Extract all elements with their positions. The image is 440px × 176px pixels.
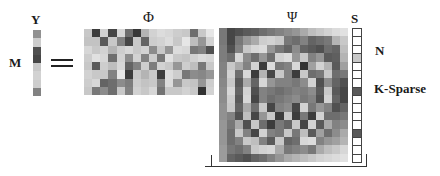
psi-cell bbox=[219, 45, 227, 53]
psi-cell bbox=[243, 53, 251, 61]
psi-cell bbox=[340, 129, 348, 137]
psi-cell bbox=[308, 53, 316, 61]
s-label: S bbox=[351, 12, 358, 25]
psi-cell bbox=[340, 53, 348, 61]
psi-cell bbox=[284, 53, 292, 61]
bracket-right bbox=[366, 154, 367, 167]
psi-cell bbox=[243, 36, 251, 44]
phi-cell bbox=[206, 29, 214, 37]
psi-label: Ψ bbox=[287, 11, 297, 25]
psi-cell bbox=[340, 45, 348, 53]
phi-cell bbox=[84, 62, 92, 70]
phi-cell bbox=[141, 29, 149, 37]
psi-cell bbox=[332, 103, 340, 111]
phi-cell bbox=[173, 54, 181, 62]
phi-cell bbox=[117, 46, 125, 54]
psi-cell bbox=[300, 36, 308, 44]
psi-basis-matrix bbox=[219, 28, 348, 162]
phi-cell bbox=[165, 46, 173, 54]
psi-cell bbox=[316, 70, 324, 78]
psi-cell bbox=[259, 70, 267, 78]
psi-cell bbox=[243, 154, 251, 162]
psi-cell bbox=[316, 45, 324, 53]
psi-cell bbox=[275, 53, 283, 61]
phi-cell bbox=[206, 70, 214, 78]
psi-cell bbox=[300, 78, 308, 86]
psi-cell bbox=[324, 129, 332, 137]
phi-cell bbox=[133, 54, 141, 62]
psi-cell bbox=[308, 129, 316, 137]
phi-cell bbox=[206, 46, 214, 54]
psi-cell bbox=[324, 36, 332, 44]
psi-cell bbox=[340, 62, 348, 70]
phi-cell bbox=[165, 29, 173, 37]
psi-cell bbox=[316, 36, 324, 44]
psi-cell bbox=[259, 87, 267, 95]
phi-cell bbox=[92, 70, 100, 78]
psi-cell bbox=[284, 145, 292, 153]
psi-cell bbox=[219, 154, 227, 162]
psi-cell bbox=[219, 95, 227, 103]
psi-cell bbox=[284, 95, 292, 103]
phi-cell bbox=[84, 70, 92, 78]
psi-cell bbox=[316, 112, 324, 120]
psi-cell bbox=[267, 36, 275, 44]
psi-cell bbox=[275, 62, 283, 70]
psi-cell bbox=[235, 87, 243, 95]
psi-cell bbox=[300, 87, 308, 95]
psi-cell bbox=[300, 62, 308, 70]
psi-cell bbox=[235, 112, 243, 120]
psi-cell bbox=[219, 36, 227, 44]
y-cell bbox=[33, 47, 41, 55]
phi-cell bbox=[190, 46, 198, 54]
psi-cell bbox=[235, 129, 243, 137]
phi-cell bbox=[108, 79, 116, 87]
phi-cell bbox=[108, 87, 116, 95]
phi-cell bbox=[117, 29, 125, 37]
phi-cell bbox=[92, 37, 100, 45]
y-label: Y bbox=[31, 13, 40, 26]
psi-cell bbox=[227, 145, 235, 153]
psi-cell bbox=[316, 78, 324, 86]
phi-cell bbox=[198, 54, 206, 62]
psi-cell bbox=[340, 145, 348, 153]
phi-cell bbox=[157, 70, 165, 78]
psi-cell bbox=[332, 120, 340, 128]
phi-cell bbox=[117, 62, 125, 70]
phi-cell bbox=[92, 79, 100, 87]
psi-cell bbox=[235, 95, 243, 103]
phi-cell bbox=[141, 87, 149, 95]
psi-cell bbox=[267, 78, 275, 86]
psi-cell bbox=[324, 70, 332, 78]
psi-cell bbox=[243, 137, 251, 145]
phi-cell bbox=[92, 46, 100, 54]
psi-cell bbox=[284, 62, 292, 70]
phi-cell bbox=[157, 87, 165, 95]
phi-cell bbox=[165, 79, 173, 87]
psi-cell bbox=[235, 120, 243, 128]
s-cell bbox=[352, 154, 362, 163]
phi-cell bbox=[198, 37, 206, 45]
phi-cell bbox=[141, 37, 149, 45]
phi-cell bbox=[92, 54, 100, 62]
phi-cell bbox=[125, 54, 133, 62]
phi-cell bbox=[190, 29, 198, 37]
phi-cell bbox=[173, 79, 181, 87]
phi-cell bbox=[108, 62, 116, 70]
psi-cell bbox=[243, 87, 251, 95]
phi-cell bbox=[100, 29, 108, 37]
psi-cell bbox=[251, 103, 259, 111]
phi-cell bbox=[92, 29, 100, 37]
psi-cell bbox=[243, 129, 251, 137]
psi-cell bbox=[275, 112, 283, 120]
phi-cell bbox=[133, 29, 141, 37]
phi-cell bbox=[100, 37, 108, 45]
phi-cell bbox=[157, 29, 165, 37]
psi-cell bbox=[316, 137, 324, 145]
phi-cell bbox=[165, 62, 173, 70]
psi-cell bbox=[292, 95, 300, 103]
psi-cell bbox=[284, 45, 292, 53]
phi-cell bbox=[149, 79, 157, 87]
psi-cell bbox=[316, 53, 324, 61]
psi-cell bbox=[340, 112, 348, 120]
